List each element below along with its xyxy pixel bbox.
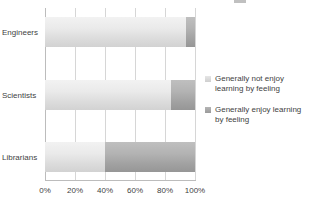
plot-area [45, 8, 195, 180]
cropped-title-remnant [234, 0, 246, 3]
category-label-engineers: Engineers [2, 28, 42, 37]
stacked-bar-chart: Engineers Scientists Librarians 0% 20% 4… [0, 0, 312, 205]
legend-swatch-icon-enjoy [205, 107, 211, 113]
bar-segment-not-enjoy-scientists [45, 80, 171, 110]
legend-swatch-icon-not-enjoy [205, 76, 211, 82]
bar-segment-enjoy-engineers [186, 17, 195, 47]
bar-row-librarians [45, 142, 195, 172]
legend-label-enjoy: Generally enjoy learning by feeling [215, 105, 309, 125]
xtick-label-20: 20% [58, 186, 92, 196]
category-axis-line [45, 180, 196, 181]
chart-legend: Generally not enjoy learning by feeling … [205, 74, 309, 136]
bar-row-scientists [45, 80, 195, 110]
xtick-label-80: 80% [148, 186, 182, 196]
bar-segment-enjoy-librarians [105, 142, 195, 172]
xtick-label-60: 60% [118, 186, 152, 196]
legend-item-not-enjoy[interactable]: Generally not enjoy learning by feeling [205, 74, 309, 94]
legend-item-enjoy[interactable]: Generally enjoy learning by feeling [205, 105, 309, 125]
xtick-label-0: 0% [28, 186, 62, 196]
category-label-scientists: Scientists [2, 91, 42, 100]
bar-row-engineers [45, 17, 195, 47]
bar-segment-not-enjoy-engineers [45, 17, 186, 47]
gridline-100 [195, 8, 196, 180]
legend-label-not-enjoy: Generally not enjoy learning by feeling [215, 74, 309, 94]
bar-segment-not-enjoy-librarians [45, 142, 105, 172]
xtick-label-100: 100% [178, 186, 212, 196]
xtick-label-40: 40% [88, 186, 122, 196]
bar-segment-enjoy-scientists [171, 80, 195, 110]
category-label-librarians: Librarians [2, 153, 42, 162]
